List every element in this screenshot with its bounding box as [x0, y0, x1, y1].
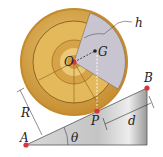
label-h: h: [135, 16, 143, 30]
label-G: G: [98, 45, 108, 59]
disk-on-incline-diagram: h O G B R P d A θ: [0, 0, 163, 157]
label-R: R: [20, 106, 30, 120]
point-B: [144, 85, 149, 90]
label-P: P: [90, 114, 100, 128]
point-G: [93, 49, 97, 53]
label-B: B: [143, 71, 153, 85]
label-d: d: [128, 114, 136, 128]
label-theta: θ: [71, 131, 79, 145]
label-A: A: [19, 131, 29, 145]
label-O: O: [64, 55, 74, 69]
point-P: [94, 108, 99, 113]
diagram-svg: h O G B R P d A θ: [0, 0, 163, 157]
